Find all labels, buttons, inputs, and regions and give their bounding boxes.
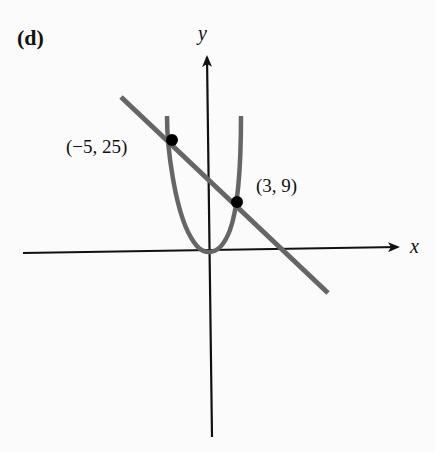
parabola-curve xyxy=(167,116,241,252)
point-label-left: (−5, 25) xyxy=(66,136,127,158)
intersection-point-left xyxy=(166,134,178,146)
x-axis-label: x xyxy=(409,235,419,257)
point-label-right: (3, 9) xyxy=(256,175,297,197)
y-axis-label: y xyxy=(196,22,207,45)
diagram: (d) y x (−5, 25) (3, 9) xyxy=(0,0,435,452)
y-axis xyxy=(207,57,212,437)
intersection-point-right xyxy=(231,196,243,208)
panel-label: (d) xyxy=(17,25,44,50)
